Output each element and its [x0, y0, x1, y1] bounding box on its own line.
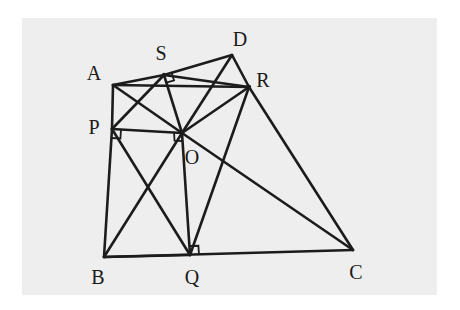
segment-PA — [112, 85, 113, 129]
segment-QB — [104, 255, 190, 257]
vertex-label-a: A — [87, 63, 101, 83]
segments-layer — [104, 55, 353, 257]
segment-BP — [104, 129, 112, 257]
vertex-label-c: C — [349, 262, 362, 282]
vertex-label-r: R — [256, 70, 269, 90]
vertex-label-d: D — [233, 29, 247, 49]
segment-DR — [232, 55, 249, 87]
segment-QR — [190, 87, 249, 255]
vertex-label-p: P — [88, 117, 99, 137]
geometry-figure: ASDRPOBQC — [0, 0, 460, 310]
diagram-svg — [0, 0, 460, 310]
vertex-label-o: O — [185, 147, 199, 167]
vertex-dot-O — [180, 131, 184, 135]
vertex-label-q: Q — [185, 267, 199, 287]
segment-PQ — [112, 129, 190, 255]
segment-RC — [249, 87, 353, 250]
segment-SO — [164, 75, 182, 133]
segment-RO — [182, 87, 249, 133]
vertex-dot-R — [247, 85, 251, 89]
segment-OC — [182, 133, 353, 250]
vertex-label-s: S — [155, 43, 166, 63]
vertex-label-b: B — [91, 267, 104, 287]
vertex-dot-S — [162, 73, 166, 77]
segment-BO — [104, 133, 182, 257]
segment-PO — [112, 129, 182, 133]
